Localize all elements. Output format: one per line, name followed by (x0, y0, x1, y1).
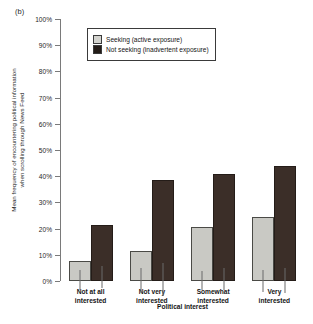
legend-label-not-seeking: Not seeking (inadvertent exposure) (106, 46, 209, 53)
error-bar (202, 271, 203, 291)
y-axis-tick-label: 0% (42, 278, 52, 285)
bar-not-seeking (91, 225, 113, 281)
legend-swatch-not-seeking-icon (93, 45, 102, 54)
bar-not-seeking (152, 180, 174, 281)
legend-item-seeking: Seeking (active exposure) (93, 35, 209, 44)
bar-group (244, 19, 305, 281)
error-bar (162, 263, 163, 296)
y-axis-tick-label: 100% (35, 16, 52, 23)
y-axis-tick-label: 50% (39, 147, 52, 154)
y-axis-title: Mean frequency of encountering political… (6, 40, 30, 240)
y-axis-tick-label: 80% (39, 68, 52, 75)
bar-not-seeking (213, 174, 235, 281)
error-bar (140, 268, 141, 293)
error-bar (263, 270, 264, 292)
legend-item-not-seeking: Not seeking (inadvertent exposure) (93, 45, 209, 54)
bar-seeking (191, 227, 213, 281)
legend-label-seeking: Seeking (active exposure) (106, 36, 182, 43)
y-axis-title-line-1: Mean frequency of encountering political… (10, 68, 19, 211)
error-bar (285, 268, 286, 293)
y-axis-tick-label: 60% (39, 120, 52, 127)
bar-seeking (252, 217, 274, 281)
y-axis-tick-label: 30% (39, 199, 52, 206)
figure-panel-b: (b) Mean frequency of encountering polit… (0, 0, 313, 324)
bar-not-seeking (274, 166, 296, 281)
y-axis-tick-label: 40% (39, 173, 52, 180)
y-axis-tick-label: 20% (39, 225, 52, 232)
x-axis-title: Political interest (60, 303, 305, 310)
error-bar (79, 270, 80, 291)
error-bar (101, 266, 102, 288)
panel-label: (b) (15, 7, 24, 16)
bar-seeking (69, 261, 91, 281)
y-axis-title-line-2: when scrolling through News Feed (18, 68, 27, 211)
bar-seeking (130, 251, 152, 281)
legend: Seeking (active exposure) Not seeking (i… (87, 28, 216, 61)
y-axis-tick-label: 10% (39, 251, 52, 258)
error-bar (224, 268, 225, 290)
y-axis-tick-label: 70% (39, 94, 52, 101)
legend-swatch-seeking-icon (93, 35, 102, 44)
y-axis-tick (55, 281, 60, 282)
y-axis-tick-label: 90% (39, 42, 52, 49)
